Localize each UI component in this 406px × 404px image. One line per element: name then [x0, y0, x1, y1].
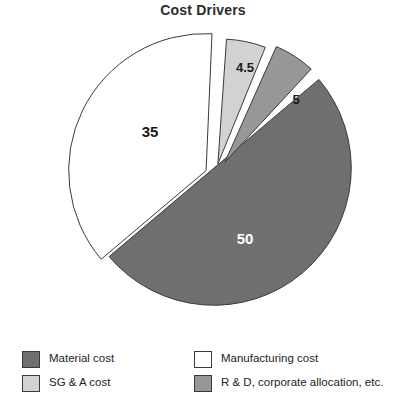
- legend-label-material-cost: Material cost: [49, 353, 114, 365]
- legend-item-material-cost[interactable]: Material cost: [22, 349, 194, 369]
- pie-label-material: 50: [237, 230, 254, 247]
- legend-label-sga-cost: SG & A cost: [49, 377, 110, 389]
- legend-label-manufacturing-cost: Manufacturing cost: [221, 353, 318, 365]
- legend-swatch-icon-sga-cost: [22, 375, 40, 392]
- pie-label-sga: 4.5: [236, 60, 254, 75]
- chart-legend: Material cost Manufacturing cost SG & A …: [22, 348, 402, 394]
- pie-label-rnd: 5: [292, 92, 299, 107]
- chart-title: Cost Drivers: [0, 2, 406, 18]
- pie-label-manufacturing: 35: [142, 123, 159, 140]
- pie-svg: 35 50 4.5 5: [0, 18, 406, 338]
- legend-item-sga-cost[interactable]: SG & A cost: [22, 373, 194, 393]
- pie-plot-area: 35 50 4.5 5: [0, 18, 406, 338]
- legend-item-rnd-corporate-allocation[interactable]: R & D, corporate allocation, etc.: [194, 373, 402, 393]
- legend-swatch-icon-manufacturing-cost: [194, 351, 212, 368]
- legend-item-manufacturing-cost[interactable]: Manufacturing cost: [194, 349, 402, 369]
- legend-swatch-icon-rnd-corporate-allocation: [194, 375, 212, 392]
- pie-chart-figure: Cost Drivers 35 50 4.5 5 Material cost M…: [0, 0, 406, 404]
- legend-swatch-icon-material-cost: [22, 351, 40, 368]
- legend-label-rnd-corporate-allocation: R & D, corporate allocation, etc.: [221, 377, 383, 389]
